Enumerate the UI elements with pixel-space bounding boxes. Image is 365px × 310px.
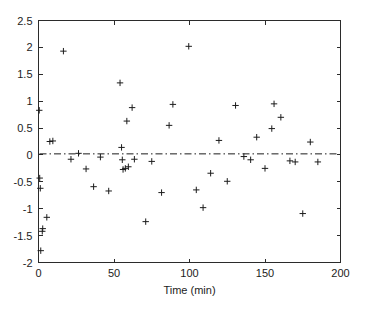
x-tick-label: 200 bbox=[331, 267, 349, 279]
scatter-plot-figure: -2-1.5-1-0.500.511.522.5050100150200Time… bbox=[0, 0, 365, 310]
y-tick-label: -2 bbox=[23, 257, 33, 269]
y-tick-label: 0 bbox=[26, 149, 32, 161]
y-tick-label: -1 bbox=[23, 203, 33, 215]
x-axis-title: Time (min) bbox=[163, 284, 215, 296]
y-tick-label: 2.5 bbox=[17, 15, 32, 27]
y-tick-label: 2 bbox=[26, 41, 32, 53]
y-tick-label: -1.5 bbox=[14, 230, 33, 242]
y-tick-label: -0.5 bbox=[14, 176, 33, 188]
y-tick-label: 0.5 bbox=[17, 122, 32, 134]
x-tick-label: 0 bbox=[35, 267, 41, 279]
y-tick-label: 1.5 bbox=[17, 68, 32, 80]
y-tick-label: 1 bbox=[26, 95, 32, 107]
x-tick-label: 50 bbox=[108, 267, 120, 279]
x-tick-label: 100 bbox=[180, 267, 198, 279]
x-tick-label: 150 bbox=[256, 267, 274, 279]
figure-background bbox=[0, 0, 365, 310]
